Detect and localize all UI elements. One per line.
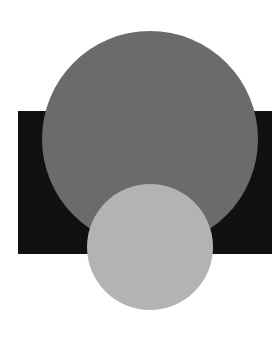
shapes-diagram <box>0 0 272 339</box>
small-light-grey-circle <box>87 184 213 310</box>
